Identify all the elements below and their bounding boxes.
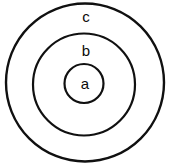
label-inner-a: a [81,75,90,92]
label-outer-c: c [82,8,90,25]
nested-circles-diagram: c b a [0,0,172,168]
diagram-canvas: c b a [0,0,172,168]
label-middle-b: b [82,42,90,59]
